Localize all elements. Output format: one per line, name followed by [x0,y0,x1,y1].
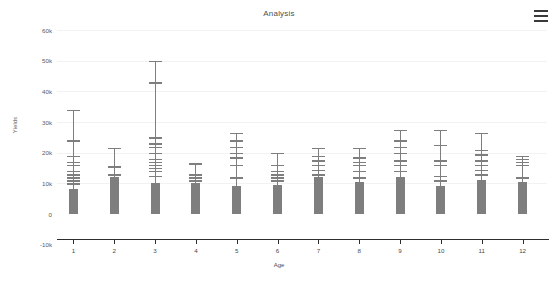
whisker-cap [312,160,325,161]
x-axis-tick [359,239,360,244]
whisker-cap [149,147,162,148]
whisker-cap [353,148,366,149]
bar[interactable] [110,177,119,214]
whisker-cap [434,160,447,161]
x-axis-tick-label: 8 [358,247,361,254]
whisker-cap [230,157,243,158]
whisker-cap [312,165,325,166]
bar[interactable] [396,177,405,214]
whisker-cap [394,165,407,166]
whisker-cap [353,177,366,178]
whisker-stem [114,148,115,177]
whisker-cap [353,162,366,163]
bar[interactable] [436,186,445,214]
whisker-cap [434,145,447,146]
whisker-cap [67,171,80,172]
x-axis-tick-label: 2 [113,247,116,254]
whisker-cap [108,174,121,175]
whisker-stem [440,130,441,187]
whisker-cap [475,160,488,161]
whisker-cap [271,171,284,172]
x-axis-title: Age [0,262,558,268]
whisker-cap [149,165,162,166]
whisker-cap [67,162,80,163]
gridline [57,183,547,184]
whisker-cap [230,147,243,148]
whisker-cap [149,171,162,172]
whisker-cap [149,61,162,62]
bar[interactable] [314,177,323,214]
plot-area [57,30,547,214]
bar[interactable] [232,186,241,214]
whisker-cap [67,174,80,175]
chart-title: Analysis [0,9,558,18]
x-axis-tick [73,239,74,244]
whisker-cap [516,156,529,157]
bar[interactable] [477,180,486,214]
whisker-cap [394,147,407,148]
whisker-cap [189,180,202,181]
x-axis-tick-label: 6 [276,247,279,254]
whisker-cap [67,140,80,141]
whisker-cap [108,166,121,167]
x-axis-tick [523,239,524,244]
whisker-cap [149,176,162,177]
whisker-cap [149,168,162,169]
whisker-cap [67,110,80,111]
x-axis-tick [278,239,279,244]
whisker-stem [318,148,319,177]
bar[interactable] [151,183,160,214]
gridline [57,122,547,123]
whisker-cap [475,133,488,134]
whisker-cap [394,153,407,154]
bar[interactable] [191,183,200,214]
whisker-cap [67,180,80,181]
gridline [57,153,547,154]
y-axis-title: Yields [12,117,18,133]
whisker-stem [481,133,482,181]
whisker-cap [271,180,284,181]
bar[interactable] [355,182,364,214]
bar[interactable] [273,185,282,214]
whisker-cap [230,165,243,166]
whisker-cap [434,130,447,131]
whisker-cap [67,183,80,184]
whisker-cap [189,163,202,164]
x-axis-tick-label: 10 [437,247,444,254]
whisker-cap [230,153,243,154]
whisker-cap [434,176,447,177]
whisker-cap [475,150,488,151]
x-axis-tick-label: 1 [72,247,75,254]
whisker-cap [149,153,162,154]
x-axis-tick-label: 9 [398,247,401,254]
whisker-cap [475,154,488,155]
whisker-cap [108,148,121,149]
gridline [57,61,547,62]
whisker-cap [149,82,162,83]
whisker-cap [475,165,488,166]
whisker-cap [475,170,488,171]
y-axis-tick-label: 30k [26,119,52,126]
whisker-cap [230,177,243,178]
x-axis-tick [155,239,156,244]
whisker-cap [271,165,284,166]
menu-line-1 [534,10,548,12]
whisker-cap [394,160,407,161]
whisker-cap [353,165,366,166]
whisker-cap [394,171,407,172]
whisker-cap [149,159,162,160]
x-axis-tick [114,239,115,244]
y-axis-tick-label: 40k [26,88,52,95]
x-axis-tick [441,239,442,244]
y-axis-tick-label: 0 [26,211,52,218]
gridline [57,30,547,31]
y-axis-tick-label: 10k [26,180,52,187]
whisker-cap [149,137,162,138]
whisker-cap [189,174,202,175]
whisker-cap [271,177,284,178]
bar[interactable] [518,182,527,214]
bar[interactable] [69,189,78,214]
whisker-cap [394,140,407,141]
x-axis-tick-label: 12 [519,247,526,254]
hamburger-menu-icon[interactable] [534,10,548,22]
